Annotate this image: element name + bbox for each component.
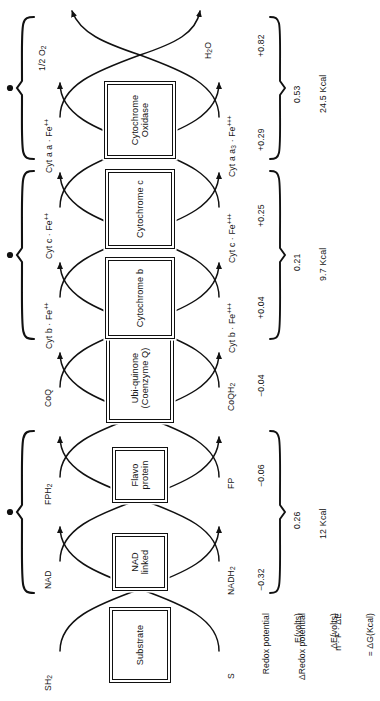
label-half-o2: 1/2 O2 — [37, 45, 47, 71]
label-cyt-c-fe3: Cyt c · Fe+++ — [226, 214, 237, 263]
carrier-label-line1: Ubi-quinone — [130, 353, 140, 404]
delta-e-value-site-3: 0.53 — [292, 85, 302, 103]
free-energy-site-3: 24.5 Kcal — [318, 75, 328, 113]
carrier-label-line2: (Coenzyme Q) — [140, 348, 150, 409]
label-s: S — [226, 673, 236, 679]
carrier-label-line1: Cytochrome — [130, 95, 140, 146]
carrier-box-cytochrome-c[interactable]: Cytochrome c — [105, 169, 175, 249]
redox-value-cytc: +0.25 — [256, 204, 266, 227]
carrier-label-line2: protein — [140, 461, 150, 490]
redox-value-cytaa: +0.29 — [256, 128, 266, 151]
legend-line1: ΔRedox potential — [297, 613, 307, 680]
atp-bracket-site-3 — [6, 13, 36, 163]
carrier-box-cytochrome-b[interactable]: Cytochrome b — [105, 257, 175, 339]
legend-line1: Redox potential — [261, 613, 271, 674]
carrier-label-line1: Flavo — [130, 464, 140, 487]
atp-bracket-site-1 — [6, 427, 36, 597]
delta-e-bracket-site-3 — [268, 13, 294, 163]
delta-e-bracket-site-2 — [268, 167, 294, 343]
label-cyt-c-fe2: Cyt c · Fe++ — [43, 213, 54, 259]
delta-e-value-site-1: 0.26 — [292, 511, 302, 529]
carrier-box-cytochrome-oxidase[interactable]: Cytochrome Oxidase — [104, 81, 176, 159]
legend-line2: = ΔG(Kcal) — [365, 613, 375, 656]
redox-value-coq: −0.04 — [256, 374, 266, 397]
redox-value-fp: −0.06 — [256, 464, 266, 487]
free-energy-site-2: 9.7 Kcal — [318, 248, 328, 281]
label-cyt-b-fe2: Cyt b · Fe++ — [43, 303, 54, 349]
atp-bracket-site-2 — [6, 167, 36, 343]
legend-free-energy: n · F · ΔE = ΔG(Kcal) — [322, 613, 380, 701]
carrier-label-line2: Oxidase — [140, 103, 150, 137]
delta-e-bracket-site-1 — [268, 427, 294, 597]
redox-value-cytb: +0.04 — [256, 296, 266, 319]
label-cyt-aa-fe2: Cyt a a · Fe++ — [43, 119, 54, 173]
carrier-label-line1: Cytochrome c — [135, 180, 145, 238]
carrier-label-line2: linked — [140, 550, 150, 575]
label-fp: FP — [226, 478, 236, 489]
carrier-label-line1: Cytochrome b — [135, 269, 145, 327]
label-cyt-aa3-fe3: Cyt a a3 · Fe+++ — [226, 116, 237, 177]
carrier-box-substrate[interactable]: Substrate — [109, 607, 171, 683]
delta-e-value-site-2: 0.21 — [292, 253, 302, 271]
legend-line1: n · F · ΔE — [333, 613, 343, 651]
label-nad: NAD — [43, 570, 53, 589]
carrier-box-nad-linked[interactable]: NAD linked — [112, 533, 168, 591]
label-h2o: H2O — [203, 42, 213, 59]
carrier-box-ubiquinone[interactable]: Ubi-quinone (Coenzyme Q) — [106, 333, 174, 423]
label-sh2: SH2 — [43, 675, 53, 691]
label-cyt-b-fe3: Cyt b · Fe+++ — [226, 303, 237, 353]
carrier-label-line1: Substrate — [135, 625, 145, 665]
free-energy-site-1: 12 Kcal — [318, 508, 328, 539]
label-coq: CoQ — [43, 389, 53, 407]
carrier-box-flavoprotein[interactable]: Flavo protein — [112, 447, 168, 503]
label-fph2: FPH2 — [43, 484, 53, 505]
label-coqh2: CoQH2 — [226, 383, 236, 411]
redox-value-nad: −0.32 — [256, 568, 266, 591]
label-nadh2: NADH2 — [226, 566, 236, 595]
redox-value-o2: +0.82 — [256, 34, 266, 57]
carrier-label-line1: NAD — [130, 552, 140, 572]
